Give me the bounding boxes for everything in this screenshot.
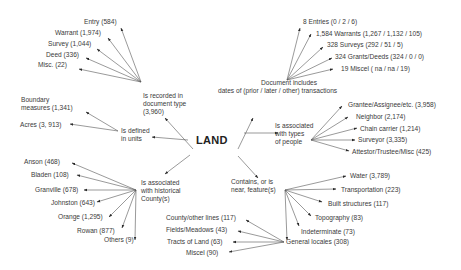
hub-document-type: Is recorded in document type (3,960) bbox=[143, 92, 186, 115]
leaf-misc: Misc. (22) bbox=[38, 61, 67, 69]
leaf-boundary-measures: Boundary measures (1,341) bbox=[21, 96, 73, 112]
arrow-county-lines bbox=[246, 220, 284, 242]
arrow-surveys bbox=[287, 47, 323, 80]
arrow-acres bbox=[70, 124, 118, 131]
hub-label-line: near, feature(s) bbox=[231, 186, 276, 194]
hub-label-line: in units bbox=[121, 135, 150, 143]
arrow-entries bbox=[287, 28, 300, 80]
leaf-built-structures: Built structures (117) bbox=[328, 200, 388, 208]
arrow-chain-carrier bbox=[311, 128, 357, 140]
hub-general-locales: General locales (308) bbox=[286, 238, 349, 246]
hub-label-line: Is defined bbox=[121, 127, 150, 135]
arrow-attestor bbox=[311, 140, 349, 151]
arrow-land-to-county bbox=[165, 155, 190, 174]
arrow-rowan bbox=[122, 190, 136, 228]
arrow-boundary bbox=[86, 112, 118, 131]
arrow-transportation bbox=[285, 189, 336, 190]
leaf-neighbor: Neighbor (2,174) bbox=[356, 113, 405, 121]
leaf-surveys: 328 Surveys (292 / 51 / 5) bbox=[327, 41, 403, 49]
arrow-grants-deeds bbox=[287, 58, 332, 80]
hub-people: Is associated with types of people bbox=[275, 122, 313, 145]
leaf-johnston: Johnston (643) bbox=[51, 199, 95, 207]
hub-label-line: Is associated bbox=[275, 122, 313, 130]
hub-label-line: Is associated bbox=[141, 179, 181, 187]
leaf-grants-deeds: 324 Grants/Deeds (324 / 0 / 0) bbox=[335, 53, 424, 61]
leaf-grantee: Grantee/Assignee/etc. (3,958) bbox=[348, 101, 436, 109]
leaf-fields-meadows: Fields/Meadows (43) bbox=[166, 226, 227, 234]
hub-label-line: with historical bbox=[141, 187, 181, 195]
leaf-line: Boundary bbox=[21, 96, 73, 104]
arrow-land-to-document-type bbox=[165, 118, 193, 149]
leaf-granville: Granville (678) bbox=[35, 186, 78, 194]
leaf-indeterminate: Indeterminate (73) bbox=[301, 228, 355, 236]
leaf-warrant: Warrant (1,974) bbox=[55, 29, 101, 37]
arrow-miscel-locales bbox=[229, 242, 284, 252]
center-node-land: LAND bbox=[196, 134, 228, 146]
arrow-others bbox=[135, 190, 136, 240]
leaf-transportation: Transportation (223) bbox=[341, 186, 401, 194]
hub-label-line: Is recorded in bbox=[143, 92, 186, 100]
hub-label-line: Document includes bbox=[218, 79, 337, 87]
leaf-topography: Topography (83) bbox=[315, 214, 363, 222]
leaf-rowan: Rowan (877) bbox=[77, 227, 115, 235]
leaf-entries: 8 Entries (0 / 2 / 6) bbox=[303, 18, 357, 26]
arrow-topography bbox=[285, 190, 311, 216]
hub-label-line: dates of (prior / later / other) transac… bbox=[218, 87, 337, 95]
arrow-warrants bbox=[287, 34, 311, 80]
arrow-built-structures bbox=[285, 190, 322, 202]
leaf-tracts: Tracts of Land (63) bbox=[167, 238, 222, 246]
arrow-land-to-features bbox=[238, 156, 258, 178]
leaf-survey: Survey (1,044) bbox=[48, 40, 91, 48]
leaf-surveyor: Surveyor (3,335) bbox=[358, 136, 407, 144]
hub-label-line: (3,960) bbox=[143, 108, 186, 116]
hub-features: Contains, or is near, feature(s) bbox=[231, 178, 276, 194]
arrow-grantee bbox=[311, 106, 342, 140]
hub-dates: Document includes dates of (prior / late… bbox=[218, 79, 337, 95]
land-concept-diagram: LAND Is recorded in document type (3,960… bbox=[0, 0, 461, 270]
leaf-warrants: 1,584 Warrants (1,267 / 1,132 / 105) bbox=[316, 30, 422, 38]
leaf-chain-carrier: Chain carrier (1,214) bbox=[360, 125, 420, 133]
arrow-entry bbox=[121, 28, 141, 82]
arrow-neighbor bbox=[311, 117, 348, 140]
leaf-deed: Deed (336) bbox=[46, 51, 79, 59]
hub-label-line: document type bbox=[143, 100, 186, 108]
leaf-others: Others (9) bbox=[104, 236, 134, 244]
arrow-fields bbox=[238, 231, 284, 242]
arrow-water bbox=[285, 176, 346, 190]
leaf-acres: Acres (3, 913) bbox=[20, 121, 61, 129]
arrow-warrant bbox=[108, 38, 141, 82]
leaf-water: Water (3,789) bbox=[350, 172, 390, 180]
hub-units: Is defined in units bbox=[121, 127, 150, 143]
arrow-misc bbox=[79, 69, 141, 82]
hub-label-line: of people bbox=[275, 138, 313, 146]
hub-label-line: Contains, or is bbox=[231, 178, 276, 186]
hub-county: Is associated with historical County(s) bbox=[141, 179, 181, 202]
leaf-anson: Anson (468) bbox=[24, 158, 60, 166]
arrow-general-locales bbox=[285, 190, 287, 240]
leaf-county-lines: County/other lines (117) bbox=[166, 214, 236, 222]
hub-label-line: County(s) bbox=[141, 195, 181, 203]
arrow-anson bbox=[72, 163, 136, 190]
leaf-miscel-locales: Miscel (90) bbox=[186, 249, 218, 257]
leaf-bladen: Bladen (108) bbox=[31, 171, 69, 179]
arrow-land-to-dates bbox=[238, 118, 253, 149]
leaf-line: measures (1,341) bbox=[21, 104, 73, 112]
leaf-entry: Entry (584) bbox=[84, 18, 117, 26]
hub-label-line: with types bbox=[275, 130, 313, 138]
arrow-indeterminate bbox=[285, 190, 299, 226]
leaf-miscel-dates: 19 Miscel ( na / na / 19) bbox=[341, 65, 410, 73]
leaf-orange: Orange (1,295) bbox=[58, 213, 103, 221]
leaf-attestor: Attestor/Trustee/Misc (425) bbox=[352, 148, 431, 156]
